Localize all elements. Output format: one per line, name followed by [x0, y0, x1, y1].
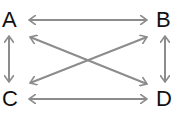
diagram-canvas: A B C D — [0, 0, 173, 121]
edges-layer — [0, 0, 173, 121]
